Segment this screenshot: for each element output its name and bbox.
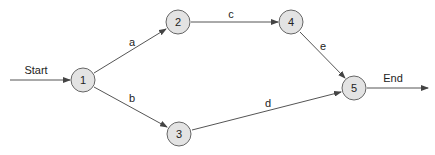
node-3-label: 3 [176,128,182,140]
node-4-label: 4 [288,16,294,28]
edge-label-c: c [228,8,234,20]
start-label: Start [24,64,47,76]
network-diagram: Start a b c d e End 1 2 3 [0,0,435,155]
end-label: End [383,72,403,84]
diagram-svg: Start a b c d e End 1 2 3 [0,0,435,155]
node-2-label: 2 [175,16,181,28]
edge-e [300,32,345,78]
node-4: 4 [279,10,303,34]
edge-label-e: e [320,40,326,52]
node-5: 5 [342,76,366,100]
edge-label-d: d [265,97,271,109]
node-5-label: 5 [351,82,357,94]
node-1: 1 [71,68,95,92]
edge-label-b: b [129,92,135,104]
edge-label-a: a [129,36,136,48]
node-2: 2 [166,10,190,34]
node-3: 3 [167,122,191,146]
node-1-label: 1 [80,74,86,86]
